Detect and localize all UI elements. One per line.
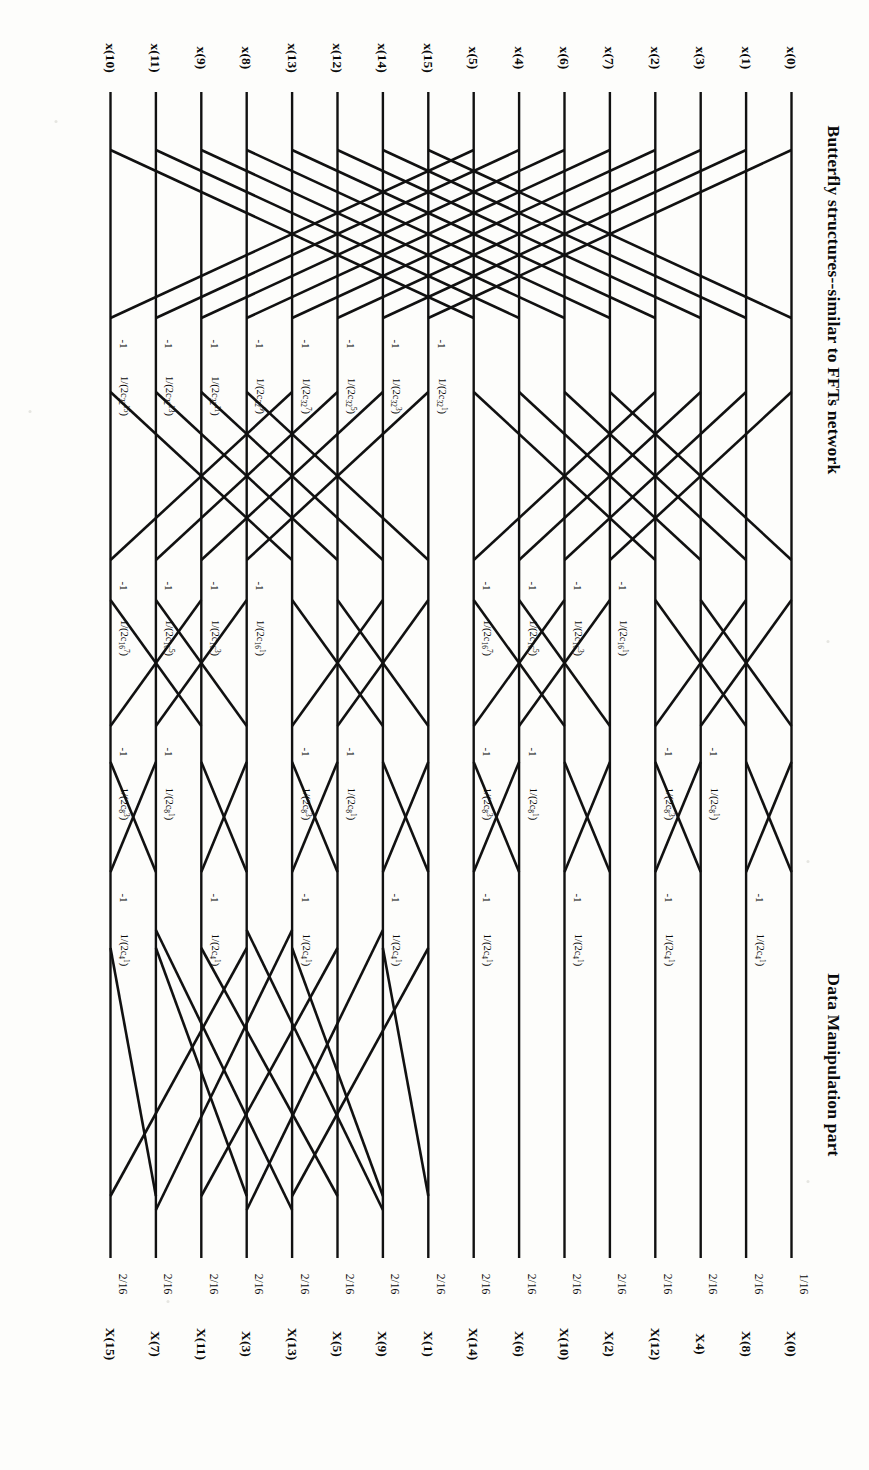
scan-speckle-0 [54, 120, 57, 123]
coefficient-s2-r13: 1/(2c163) [208, 620, 221, 656]
minus-one-s4-r3: -1 [662, 893, 673, 902]
output-scale-3: 2/16 [661, 1274, 673, 1294]
output-label-11: X(13) [285, 1328, 299, 1361]
minus-one-s2-r13: -1 [208, 581, 219, 590]
minus-one-s1-r11: -1 [299, 339, 310, 348]
minus-one-s3-r7: -1 [481, 747, 492, 756]
output-scale-6: 2/16 [525, 1274, 537, 1294]
coefficient-s3-r7: 1/(2c83) [480, 788, 493, 820]
minus-one-s2-r14: -1 [163, 581, 174, 590]
coefficient-s1-r9: 1/(2c323) [389, 378, 402, 414]
output-scale-1: 2/16 [752, 1274, 764, 1294]
coefficient-s2-r15: 1/(2c167) [117, 620, 130, 656]
input-label-0: x(0) [784, 47, 798, 70]
input-label-12: x(8) [239, 47, 253, 70]
coefficient-s4-r15: 1/(2c41) [117, 934, 130, 966]
input-label-3: x(2) [648, 47, 662, 70]
coefficient-s4-r1: 1/(2c41) [752, 934, 765, 966]
output-scale-4: 2/16 [616, 1274, 628, 1294]
input-label-9: x(14) [376, 43, 390, 73]
permutation-extra-7 [110, 948, 155, 1196]
output-label-4: X(2) [603, 1331, 617, 1357]
output-scale-8: 2/16 [434, 1274, 446, 1294]
coefficient-s4-r5: 1/(2c41) [571, 934, 584, 966]
permutation-extra-0 [292, 948, 428, 1196]
minus-one-s4-r9: -1 [390, 893, 401, 902]
minus-one-s3-r6: -1 [526, 747, 537, 756]
minus-one-s4-r11: -1 [299, 893, 310, 902]
coefficient-s3-r15: 1/(2c83) [117, 788, 130, 820]
minus-one-s1-r14: -1 [163, 339, 174, 348]
output-label-13: X(11) [194, 1328, 208, 1360]
output-scale-15: 2/16 [116, 1274, 128, 1294]
signal-flow-graph-svg [0, 0, 869, 1470]
minus-one-s1-r15: -1 [118, 339, 129, 348]
output-label-0: X(0) [784, 1331, 798, 1357]
input-label-4: x(7) [603, 47, 617, 70]
minus-one-s2-r5: -1 [572, 581, 583, 590]
output-scale-13: 2/16 [207, 1274, 219, 1294]
output-label-10: X(5) [330, 1331, 344, 1357]
figure-title-butterfly: Butterfly structures--similar to FFTs ne… [823, 126, 844, 475]
minus-one-s2-r15: -1 [118, 581, 129, 590]
figure-page: Butterfly structures--similar to FFTs ne… [0, 0, 869, 1470]
minus-one-s3-r10: -1 [345, 747, 356, 756]
coefficient-s2-r4: 1/(2c161) [616, 620, 629, 656]
input-label-10: x(12) [330, 43, 344, 73]
coefficient-s1-r8: 1/(2c321) [435, 378, 448, 414]
input-label-6: x(4) [512, 47, 526, 70]
output-label-8: X(1) [421, 1331, 435, 1357]
output-label-7: X(14) [466, 1328, 480, 1361]
input-label-1: x(1) [739, 47, 753, 70]
minus-one-s1-r9: -1 [390, 339, 401, 348]
input-label-11: x(13) [285, 43, 299, 73]
coefficient-s2-r12: 1/(2c161) [253, 620, 266, 656]
coefficient-s2-r5: 1/(2c163) [571, 620, 584, 656]
input-label-2: x(3) [693, 47, 707, 70]
output-label-1: X(8) [739, 1331, 753, 1357]
figure-title-data-manipulation: Data Manipulation part [823, 973, 844, 1156]
scan-speckle-5 [806, 1180, 809, 1183]
minus-one-s4-r15: -1 [118, 893, 129, 902]
output-label-2: X4) [693, 1333, 707, 1354]
output-scale-11: 2/16 [298, 1274, 310, 1294]
coefficient-s2-r14: 1/(2c165) [162, 620, 175, 656]
minus-one-s2-r12: -1 [254, 581, 265, 590]
input-label-8: x(15) [421, 43, 435, 73]
minus-one-s2-r6: -1 [526, 581, 537, 590]
scan-speckle-2 [166, 1300, 169, 1303]
coefficient-s2-r7: 1/(2c167) [480, 620, 493, 656]
coefficient-s4-r9: 1/(2c41) [389, 934, 402, 966]
output-label-12: X(3) [239, 1331, 253, 1357]
input-label-13: x(9) [194, 47, 208, 70]
coefficient-s4-r7: 1/(2c41) [480, 934, 493, 966]
coefficient-s1-r15: 1/(2c3215) [117, 376, 130, 416]
output-scale-2: 2/16 [706, 1274, 718, 1294]
coefficient-s1-r14: 1/(2c3213) [162, 376, 175, 416]
minus-one-s3-r15: -1 [118, 747, 129, 756]
output-scale-9: 2/16 [389, 1274, 401, 1294]
coefficient-s3-r6: 1/(2c81) [525, 788, 538, 820]
coefficient-s1-r11: 1/(2c327) [298, 378, 311, 414]
output-scale-14: 2/16 [162, 1274, 174, 1294]
minus-one-s3-r14: -1 [163, 747, 174, 756]
input-label-15: x(10) [103, 43, 117, 73]
coefficient-s3-r2: 1/(2c81) [707, 788, 720, 820]
coefficient-s1-r10: 1/(2c325) [344, 378, 357, 414]
minus-one-s1-r10: -1 [345, 339, 356, 348]
output-label-6: X(6) [512, 1331, 526, 1357]
input-label-7: x(5) [466, 47, 480, 70]
coefficient-s1-r12: 1/(2c329) [253, 378, 266, 414]
output-label-14: X(7) [149, 1331, 163, 1357]
minus-one-s1-r13: -1 [208, 339, 219, 348]
output-scale-0: 1/16 [797, 1274, 809, 1294]
minus-one-s3-r2: -1 [708, 747, 719, 756]
output-label-5: X(10) [557, 1328, 571, 1361]
input-label-14: x(11) [149, 44, 163, 73]
coefficient-s3-r10: 1/(2c81) [344, 788, 357, 820]
coefficient-s3-r11: 1/(2c83) [298, 788, 311, 820]
coefficient-s2-r6: 1/(2c165) [525, 620, 538, 656]
minus-one-s4-r1: -1 [753, 893, 764, 902]
output-scale-10: 2/16 [343, 1274, 355, 1294]
output-scale-5: 2/16 [570, 1274, 582, 1294]
